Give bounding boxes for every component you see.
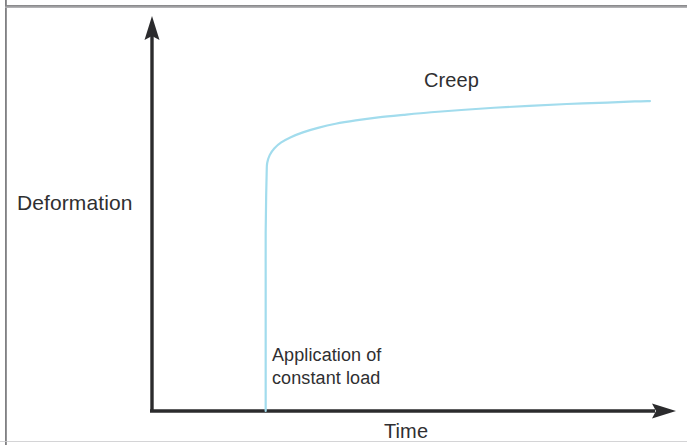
load-application-annotation: Application ofconstant load: [272, 344, 381, 390]
x-axis: [150, 404, 676, 419]
y-axis: [145, 16, 160, 411]
creep-chart-figure: Deformation Time Creep Application ofcon…: [0, 0, 687, 445]
load-annotation-line-1: Application of: [272, 344, 381, 367]
x-axis-arrowhead: [652, 404, 676, 419]
y-axis-title: Deformation: [17, 190, 132, 217]
x-axis-title: Time: [384, 419, 428, 445]
creep-annotation-label: Creep: [424, 68, 479, 94]
load-annotation-line-2: constant load: [272, 367, 381, 390]
